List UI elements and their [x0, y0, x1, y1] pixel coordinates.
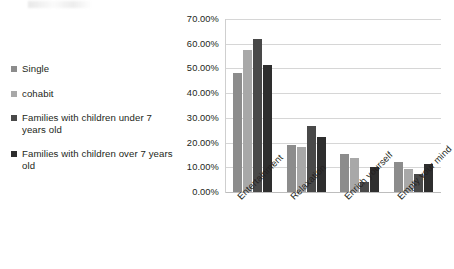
- legend-item-label: Single: [22, 63, 49, 75]
- y-axis-labels: 0.00%10.00%20.00%30.00%40.00%50.00%60.00…: [178, 0, 222, 200]
- legend-item-label: Families with children over 7 years old: [22, 148, 173, 171]
- legend-item[interactable]: Families with children under 7 years old: [11, 112, 173, 135]
- y-axis-tick-label: 0.00%: [192, 187, 219, 197]
- bar[interactable]: [287, 145, 296, 192]
- legend-item-label: Families with children under 7 years old: [22, 112, 173, 135]
- legend-swatch-icon: [11, 91, 17, 97]
- y-axis-tick-label: 70.00%: [187, 14, 219, 24]
- bar[interactable]: [243, 50, 252, 192]
- legend-item[interactable]: Single: [11, 63, 173, 75]
- y-axis-tick-label: 60.00%: [187, 39, 219, 49]
- legend-swatch-icon: [11, 66, 17, 72]
- chart-legend: SinglecohabitFamilies with children unde…: [11, 63, 173, 172]
- scan-artifact: [28, 1, 92, 8]
- legend-item-label: cohabit: [22, 88, 54, 100]
- legend-item[interactable]: cohabit: [11, 88, 173, 100]
- bar-groups: [226, 0, 440, 192]
- y-axis-tick-label: 50.00%: [187, 63, 219, 73]
- chart-plot-area: 0.00%10.00%20.00%30.00%40.00%50.00%60.00…: [178, 0, 442, 269]
- x-axis-labels: EntertainmentRelaxationEnrich yourselfEm…: [226, 194, 442, 269]
- y-axis-tick-label: 30.00%: [187, 113, 219, 123]
- y-axis-tick-label: 20.00%: [187, 138, 219, 148]
- y-axis-tick-label: 40.00%: [187, 88, 219, 98]
- bar-group: [280, 0, 334, 192]
- legend-swatch-icon: [11, 115, 17, 121]
- y-axis-tick-label: 10.00%: [187, 162, 219, 172]
- legend-swatch-icon: [11, 151, 17, 157]
- bar[interactable]: [233, 73, 242, 192]
- legend-item[interactable]: Families with children over 7 years old: [11, 148, 173, 171]
